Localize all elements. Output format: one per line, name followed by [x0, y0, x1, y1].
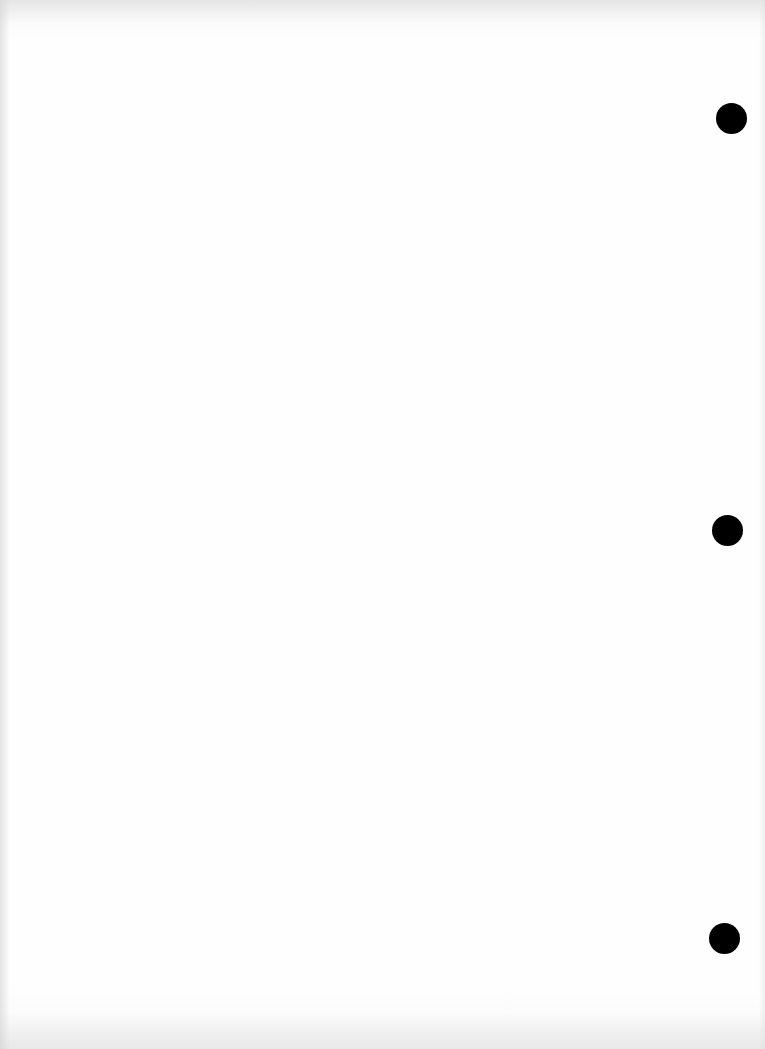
punch-hole-2 — [712, 515, 743, 546]
scan-edge-shadow-top — [0, 0, 765, 40]
scan-edge-shadow-bottom — [0, 989, 765, 1049]
scan-edge-shadow-left — [0, 0, 10, 1049]
scanned-page — [0, 0, 765, 1049]
punch-hole-3 — [709, 923, 740, 954]
punch-hole-1 — [716, 103, 747, 134]
scan-edge-shadow-right — [759, 0, 765, 1049]
